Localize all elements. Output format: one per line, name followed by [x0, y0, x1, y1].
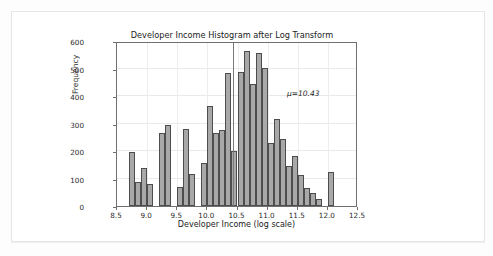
- y-axis-tick-mark: [113, 97, 116, 98]
- y-axis-tick-mark: [113, 70, 116, 71]
- chart-title: Developer Income Histogram after Log Tra…: [82, 30, 382, 40]
- x-axis-tick-mark: [327, 207, 328, 210]
- mean-annotation: μ=10.43: [287, 89, 320, 98]
- y-axis-tick-label: 0: [44, 203, 84, 212]
- output-cell-frame: Developer Income Histogram after Log Tra…: [11, 11, 485, 242]
- mean-annotation-text: μ=10.43: [287, 89, 320, 98]
- x-axis-tick-mark: [146, 207, 147, 210]
- x-axis-tick-mark: [206, 207, 207, 210]
- histogram-bar: [316, 199, 322, 206]
- y-axis-tick-mark: [113, 125, 116, 126]
- x-axis-tick-mark: [176, 207, 177, 210]
- y-axis-tick-label: 600: [44, 38, 84, 47]
- histogram-bar: [165, 125, 171, 206]
- histogram-bar: [147, 184, 153, 206]
- notebook-output-area: Out Developer Income Histogram after Log…: [0, 0, 493, 256]
- y-axis-tick-label: 300: [44, 121, 84, 130]
- histogram-bar: [328, 172, 334, 206]
- x-axis-tick-mark: [237, 207, 238, 210]
- plot-axes: μ=10.43: [116, 42, 357, 207]
- y-axis-tick-mark: [113, 42, 116, 43]
- y-axis-tick-mark: [113, 152, 116, 153]
- x-axis-tick-mark: [357, 207, 358, 210]
- y-axis-tick-label: 100: [44, 176, 84, 185]
- y-axis-tick-label: 200: [44, 148, 84, 157]
- y-axis-tick-mark: [113, 180, 116, 181]
- x-axis-tick-label: 12.5: [337, 211, 377, 220]
- x-axis-tick-mark: [297, 207, 298, 210]
- y-axis-tick-label: 400: [44, 93, 84, 102]
- histogram-bar: [189, 174, 195, 206]
- mean-vertical-line: [233, 43, 234, 206]
- histogram-figure: Developer Income Histogram after Log Tra…: [72, 16, 372, 238]
- x-axis-tick-mark: [116, 207, 117, 210]
- y-axis-tick-label: 500: [44, 66, 84, 75]
- bars-container: [117, 43, 356, 206]
- x-axis-label: Developer Income (log scale): [116, 220, 357, 229]
- x-axis-tick-mark: [267, 207, 268, 210]
